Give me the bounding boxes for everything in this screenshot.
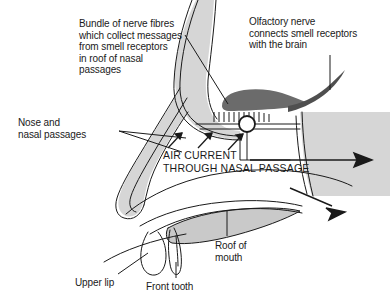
nerve-junction-marker xyxy=(239,116,255,132)
label-air-current: AIR CURRENT THROUGH NASAL PASSAGE xyxy=(163,149,310,174)
olfactory-nerve-tract xyxy=(288,70,345,112)
pharynx-wall xyxy=(300,112,390,196)
tongue xyxy=(166,208,300,244)
label-nerve-bundle: Bundle of nerve fibres which collect mes… xyxy=(79,18,182,76)
olfactory-system-diagram: Bundle of nerve fibres which collect mes… xyxy=(0,0,390,306)
leader-upper-lip xyxy=(118,253,148,274)
label-nose-nasal-passages: Nose and nasal passages xyxy=(18,117,86,140)
label-roof-of-mouth: Roof of mouth xyxy=(215,240,247,263)
label-olfactory-nerve: Olfactory nerve connects smell receptors… xyxy=(249,16,357,51)
label-front-tooth: Front tooth xyxy=(146,281,193,293)
label-upper-lip: Upper lip xyxy=(75,277,114,289)
upper-lip xyxy=(141,232,166,275)
